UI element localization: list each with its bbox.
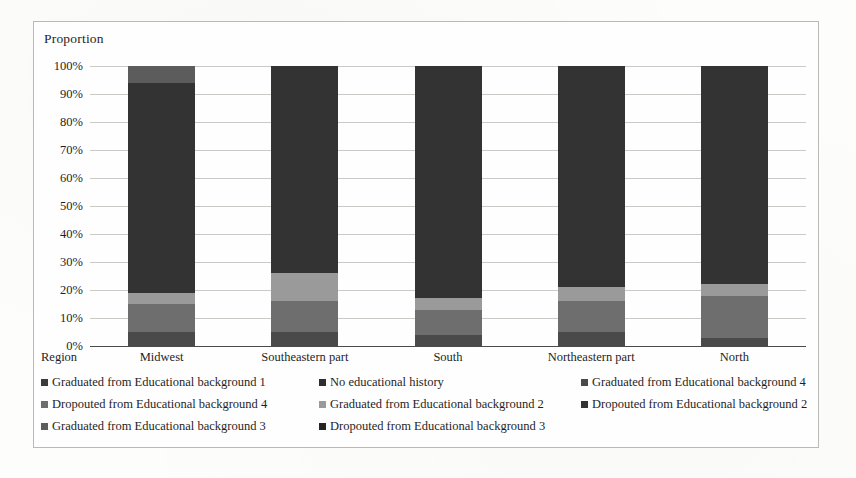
legend-item[interactable]: Dropouted from Educational background 2 — [581, 397, 813, 412]
plot-area: 100%90%80%70%60%50%40%30%20%10%0% — [90, 66, 806, 346]
x-axis-category-label: Northeastern part — [520, 350, 663, 365]
bar-segment[interactable] — [701, 66, 768, 284]
bar-segment[interactable] — [558, 66, 625, 287]
legend-item[interactable]: No educational history — [319, 375, 581, 390]
legend-swatch-icon — [319, 423, 326, 430]
bar-segment[interactable] — [415, 310, 482, 335]
x-axis-title: Region — [41, 350, 77, 365]
chart-legend: Graduated from Educational background 1N… — [41, 371, 813, 437]
bar-segment[interactable] — [128, 293, 195, 304]
bar-segment[interactable] — [128, 304, 195, 332]
legend-label: Dropouted from Educational background 3 — [330, 419, 545, 434]
bar-slot — [376, 66, 519, 346]
bar-slot — [520, 66, 663, 346]
bar-segment[interactable] — [128, 66, 195, 83]
legend-label: Graduated from Educational background 4 — [592, 375, 806, 390]
bar-segment[interactable] — [128, 332, 195, 346]
x-axis-category-label: North — [663, 350, 806, 365]
legend-row: Graduated from Educational background 3D… — [41, 415, 813, 437]
bar-slot — [663, 66, 806, 346]
y-axis-tick-label: 70% — [60, 143, 83, 158]
bar-segment[interactable] — [415, 335, 482, 346]
y-axis-tick-label: 80% — [60, 115, 83, 130]
legend-swatch-icon — [581, 379, 588, 386]
x-axis-category-labels: MidwestSoutheastern partSouthNortheaster… — [90, 350, 806, 365]
legend-label: Dropouted from Educational background 4 — [52, 397, 267, 412]
stacked-bar[interactable] — [415, 66, 482, 346]
legend-label: Graduated from Educational background 3 — [52, 419, 266, 434]
bar-slot — [233, 66, 376, 346]
legend-swatch-icon — [41, 401, 48, 408]
bar-segment[interactable] — [271, 332, 338, 346]
legend-swatch-icon — [41, 379, 48, 386]
x-axis-category-label: Southeastern part — [233, 350, 376, 365]
x-axis-category-label: Midwest — [90, 350, 233, 365]
y-axis-title: Proportion — [44, 31, 104, 47]
bar-segment[interactable] — [128, 83, 195, 293]
y-axis-tick-label: 100% — [54, 59, 83, 74]
bar-segment[interactable] — [271, 301, 338, 332]
bar-segment[interactable] — [271, 273, 338, 301]
legend-item[interactable]: Dropouted from Educational background 4 — [41, 397, 319, 412]
bar-group — [90, 66, 806, 346]
bar-segment[interactable] — [558, 301, 625, 332]
legend-item[interactable]: Graduated from Educational background 3 — [41, 419, 319, 434]
stacked-bar[interactable] — [701, 66, 768, 346]
legend-row: Graduated from Educational background 1N… — [41, 371, 813, 393]
x-axis-category-label: South — [376, 350, 519, 365]
legend-row: Dropouted from Educational background 4G… — [41, 393, 813, 415]
bar-segment[interactable] — [701, 296, 768, 338]
bar-segment[interactable] — [415, 66, 482, 298]
bar-segment[interactable] — [701, 284, 768, 295]
y-axis-tick-label: 50% — [60, 199, 83, 214]
legend-item[interactable]: Graduated from Educational background 2 — [319, 397, 581, 412]
bar-segment[interactable] — [701, 338, 768, 346]
y-axis-tick-label: 20% — [60, 283, 83, 298]
bar-slot — [90, 66, 233, 346]
bar-segment[interactable] — [271, 66, 338, 273]
stacked-bar[interactable] — [558, 66, 625, 346]
legend-swatch-icon — [41, 423, 48, 430]
bar-segment[interactable] — [558, 287, 625, 301]
y-axis-tick-label: 10% — [60, 311, 83, 326]
legend-label: Graduated from Educational background 1 — [52, 375, 266, 390]
bar-segment[interactable] — [558, 332, 625, 346]
legend-label: Dropouted from Educational background 2 — [592, 397, 807, 412]
legend-item[interactable]: Dropouted from Educational background 3 — [319, 419, 581, 434]
legend-swatch-icon — [319, 379, 326, 386]
legend-swatch-icon — [319, 401, 326, 408]
legend-label: No educational history — [330, 375, 444, 390]
y-axis-tick-label: 90% — [60, 87, 83, 102]
y-axis-tick-label: 40% — [60, 227, 83, 242]
y-axis-tick-label: 60% — [60, 171, 83, 186]
legend-swatch-icon — [581, 401, 588, 408]
legend-label: Graduated from Educational background 2 — [330, 397, 544, 412]
legend-item[interactable]: Graduated from Educational background 1 — [41, 375, 319, 390]
stacked-bar[interactable] — [271, 66, 338, 346]
x-axis-line — [90, 346, 806, 347]
legend-item[interactable]: Graduated from Educational background 4 — [581, 375, 813, 390]
stacked-bar[interactable] — [128, 66, 195, 346]
y-axis-tick-label: 30% — [60, 255, 83, 270]
bar-segment[interactable] — [415, 298, 482, 309]
